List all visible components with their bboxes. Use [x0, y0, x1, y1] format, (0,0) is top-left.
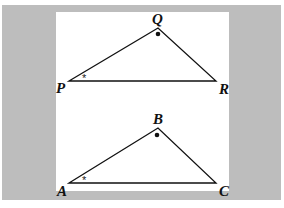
vertex-label-b: B: [152, 111, 163, 127]
angle-b-dot: [155, 133, 160, 138]
angle-a-mark: *: [82, 174, 87, 186]
vertex-label-c: C: [219, 183, 230, 199]
triangle-abc-shape: [69, 128, 216, 183]
vertex-label-p: P: [56, 80, 66, 96]
angle-q-dot: [156, 32, 161, 37]
triangle-pqr: * P Q R: [56, 11, 229, 97]
triangle-diagram: * P Q R * A B C: [0, 0, 284, 208]
vertex-label-r: R: [218, 81, 229, 97]
vertex-label-q: Q: [152, 11, 163, 27]
triangle-pqr-shape: [69, 28, 216, 81]
triangle-abc: * A B C: [56, 111, 230, 199]
angle-p-mark: *: [82, 72, 87, 84]
vertex-label-a: A: [56, 183, 67, 199]
